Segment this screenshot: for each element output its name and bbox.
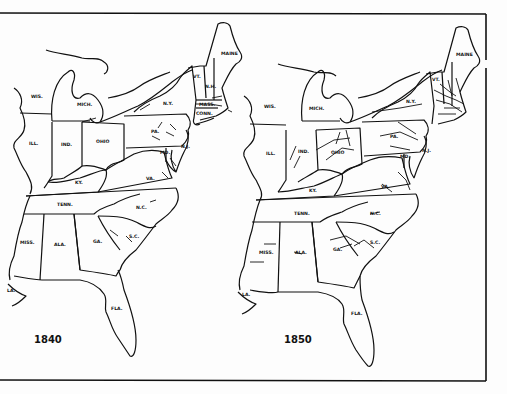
carolina-coast [360,194,418,276]
label-md: MD. [160,150,170,155]
figure-frame: MAINE VT. N.H. N.Y. MASS. CONN. PA. N.J.… [0,0,507,394]
gulf-coast [250,276,374,366]
label-ohio: OHIO [331,150,344,155]
carolina-coast [120,188,178,270]
label-ky: KY. [75,180,83,185]
tennessee-nc-border [252,202,368,222]
label-ga: GA. [333,247,342,252]
west-border [244,96,262,200]
label-conn: CONN. [196,111,213,116]
label-ind: IND. [61,142,72,147]
upper-peninsula [278,64,336,76]
label-ind: IND. [298,149,309,154]
virginia-outline [334,157,410,196]
map-1850: MAINE VT. N.Y. PA. N.J. MD. OHIO MICH. W… [238,27,480,367]
label-tenn: TENN. [57,202,73,207]
label-ala: ALA. [54,242,66,247]
michigan-outline [52,70,103,122]
label-mass: MASS. [199,102,216,107]
label-nh: N.H. [205,84,216,89]
label-sc: S.C. [129,234,139,239]
label-ga: GA. [93,239,102,244]
label-mich: MICH. [309,106,324,111]
label-vt: VT. [193,74,201,79]
label-pa: PA. [390,134,399,139]
label-ny: N.Y. [163,101,173,106]
upper-peninsula [46,50,108,74]
label-maine: MAINE [221,51,238,56]
michigan-outline [302,70,353,122]
lake-shoreline [350,70,442,122]
label-nj: N.J. [181,144,190,149]
year-label-1840: 1840 [34,334,62,345]
label-la: LA. [242,292,251,297]
label-wis: WIS. [264,104,276,109]
label-va: VA. [381,184,390,189]
label-la: LA. [7,288,16,293]
label-ohio: OHIO [96,139,109,144]
year-label-1850: 1850 [284,334,312,345]
label-ill: ILL. [29,141,39,146]
label-fla: FLA. [111,306,123,311]
virginia-outline [98,151,172,192]
tennessee-nc-border [24,194,140,214]
frame-border [0,13,486,381]
label-ill: ILL. [266,151,276,156]
map-1840: MAINE VT. N.H. N.Y. MASS. CONN. PA. N.J.… [7,23,242,357]
label-miss: MISS. [259,250,274,255]
georgia-outline [74,214,120,276]
label-va: VA. [146,176,155,181]
kentucky-outline [256,174,343,200]
label-vt: VT. [432,77,440,82]
label-sc: S.C. [370,240,380,245]
railroads-1850 [250,78,464,262]
label-ky: KY. [309,188,317,193]
label-tenn: TENN. [294,211,310,216]
label-wis: WIS. [31,94,43,99]
state-labels-1840: MAINE VT. N.H. N.Y. MASS. CONN. PA. N.J.… [7,51,238,311]
label-maine: MAINE [456,52,473,57]
label-ala: ALA. [295,250,307,255]
gulf-coast [14,270,136,356]
label-miss: MISS. [20,240,35,245]
label-md: MD. [400,154,410,159]
georgia-outline [312,222,360,288]
label-pa: PA. [151,129,160,134]
label-nc: N.C. [370,211,381,216]
label-ny: N.Y. [406,99,416,104]
label-mich: MICH. [77,102,92,107]
label-nj: N.J. [422,148,431,153]
label-fla: FLA. [351,311,363,316]
label-nc: N.C. [136,205,147,210]
